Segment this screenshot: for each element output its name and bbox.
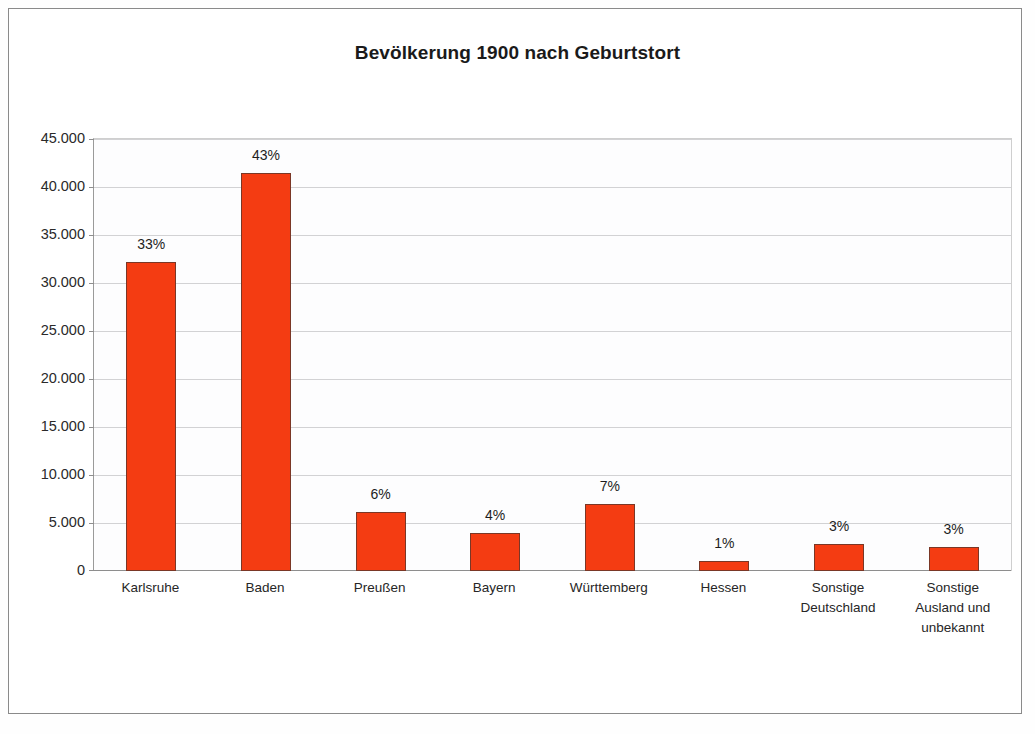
y-tick-mark — [89, 427, 94, 428]
y-tick-mark — [89, 187, 94, 188]
gridline-5000 — [94, 523, 1011, 524]
x-axis-category-line: unbekannt — [888, 618, 1018, 638]
y-axis-tick-label: 35.000 — [9, 226, 85, 242]
gridline-30000 — [94, 283, 1011, 284]
gridline-35000 — [94, 235, 1011, 236]
y-tick-mark — [89, 139, 94, 140]
chart-page: Bevölkerung 1900 nach Geburtstort 05.000… — [0, 0, 1035, 734]
y-axis-tick-label: 25.000 — [9, 322, 85, 338]
x-axis-category-line: Bayern — [429, 578, 559, 598]
gridline-0 — [94, 570, 1011, 571]
bar-bayern[interactable] — [470, 533, 520, 571]
chart-title: Bevölkerung 1900 nach Geburtstort — [0, 42, 1035, 64]
gridline-40000 — [94, 187, 1011, 188]
y-axis-tick-label: 0 — [9, 562, 85, 578]
x-axis-category-line: Württemberg — [544, 578, 674, 598]
gridline-10000 — [94, 475, 1011, 476]
x-axis-category-line: Hessen — [658, 578, 788, 598]
x-axis-category-label: Karlsruhe — [85, 578, 215, 598]
x-axis-category-label: Bayern — [429, 578, 559, 598]
y-axis-tick-label: 15.000 — [9, 418, 85, 434]
y-tick-mark — [89, 331, 94, 332]
x-axis-category-label: Württemberg — [544, 578, 674, 598]
x-axis-category-label: SonstigeAusland undunbekannt — [888, 578, 1018, 638]
bar-value-label: 33% — [137, 236, 165, 252]
gridline-45000 — [94, 139, 1011, 140]
gridline-20000 — [94, 379, 1011, 380]
x-axis-category-label: Baden — [200, 578, 330, 598]
bar-hessen[interactable] — [699, 561, 749, 571]
plot-area: 33%43%6%4%7%1%3%3% — [93, 138, 1012, 571]
y-axis-tick-label: 20.000 — [9, 370, 85, 386]
x-axis-category-line: Sonstige — [888, 578, 1018, 598]
x-axis: KarlsruheBadenPreußenBayernWürttembergHe… — [93, 578, 1010, 668]
y-axis-tick-label: 30.000 — [9, 274, 85, 290]
x-axis-category-label: Hessen — [658, 578, 788, 598]
bar-value-label: 3% — [944, 521, 964, 537]
y-tick-mark — [89, 379, 94, 380]
bar-preu-en[interactable] — [356, 512, 406, 571]
gridline-15000 — [94, 427, 1011, 428]
bar-w-rttemberg[interactable] — [585, 504, 635, 571]
y-tick-mark — [89, 475, 94, 476]
x-axis-category-line: Baden — [200, 578, 330, 598]
bar-sonstige-deutschland[interactable] — [814, 544, 864, 571]
x-axis-category-label: SonstigeDeutschland — [773, 578, 903, 618]
bar-value-label: 6% — [370, 486, 390, 502]
bar-sonstige-ausland-und-unbekannt[interactable] — [929, 547, 979, 571]
x-axis-category-line: Preußen — [315, 578, 445, 598]
x-axis-category-label: Preußen — [315, 578, 445, 598]
x-axis-category-line: Deutschland — [773, 598, 903, 618]
x-axis-category-line: Ausland und — [888, 598, 1018, 618]
bar-baden[interactable] — [241, 173, 291, 571]
y-tick-mark — [89, 570, 94, 571]
y-axis-tick-label: 40.000 — [9, 178, 85, 194]
bar-value-label: 43% — [252, 147, 280, 163]
bar-value-label: 3% — [829, 518, 849, 534]
y-tick-mark — [89, 235, 94, 236]
bar-value-label: 1% — [714, 535, 734, 551]
y-axis-tick-label: 10.000 — [9, 466, 85, 482]
y-tick-mark — [89, 523, 94, 524]
y-axis: 05.00010.00015.00020.00025.00030.00035.0… — [0, 138, 85, 570]
y-tick-mark — [89, 283, 94, 284]
bar-value-label: 4% — [485, 507, 505, 523]
bar-karlsruhe[interactable] — [126, 262, 176, 571]
y-axis-tick-label: 5.000 — [9, 514, 85, 530]
x-axis-category-line: Sonstige — [773, 578, 903, 598]
gridline-25000 — [94, 331, 1011, 332]
x-axis-category-line: Karlsruhe — [85, 578, 215, 598]
bar-value-label: 7% — [600, 478, 620, 494]
y-axis-tick-label: 45.000 — [9, 130, 85, 146]
